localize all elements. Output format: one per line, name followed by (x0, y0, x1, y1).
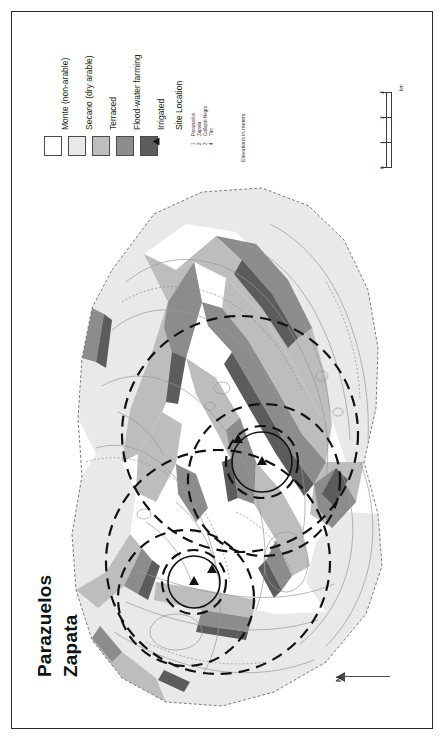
site-list-item-2: Zapata (197, 122, 202, 136)
legend-label-irrigated: Irrigated (156, 99, 166, 130)
map-canvas (26, 162, 426, 732)
elevation-note: Elevations in meters (240, 113, 246, 162)
site-list-item-4: Tiro (209, 128, 214, 136)
scale-label-1: 1 (379, 141, 385, 144)
legend-label-floodwater: Flood-water farming (132, 54, 142, 130)
site-list-item-1: Parazuelos (191, 113, 196, 136)
site-num-1: 1 (191, 142, 196, 145)
legend-swatch-terraced (92, 136, 110, 156)
legend-swatch-secano (68, 136, 86, 156)
site-list-item-3: Callejon Negro (203, 106, 208, 136)
site-location-heading: Site Location (174, 81, 184, 130)
scale-unit-label: km (398, 84, 404, 91)
site-num-2: 2 (197, 142, 202, 145)
site-num-4: 4 (209, 142, 214, 145)
scale-bar-rail-2 (391, 92, 392, 168)
map-svg (26, 162, 426, 732)
legend-label-secano: Secano (dry arable) (84, 55, 94, 130)
site-list-num-1: 1 (191, 135, 196, 138)
legend-label-terraced: Terraced (108, 97, 118, 130)
legend-swatch-monte (44, 136, 62, 156)
legend-swatch-floodwater (116, 136, 134, 156)
map-landuse-layer (26, 162, 426, 732)
scale-label-2: 2 (379, 116, 385, 119)
scale-bar-rail (386, 92, 387, 168)
site-num-3: 3 (203, 142, 208, 145)
legend-label-monte: Monte (non-arable) (60, 58, 70, 130)
figure-frame: Parazuelos Zapata Monte (non-arable) Sec… (11, 11, 433, 729)
scale-label-3: 3 (379, 91, 385, 94)
figure-page: Parazuelos Zapata Monte (non-arable) Sec… (0, 0, 445, 741)
triangle-marker-icon (153, 138, 160, 146)
